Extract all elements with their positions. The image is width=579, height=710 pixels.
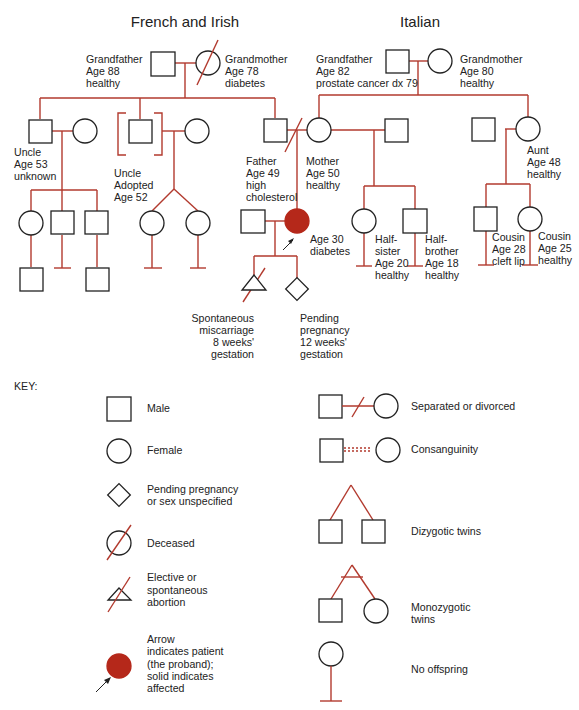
- svg-text:diabetes: diabetes: [225, 77, 265, 89]
- halfbrother-label: Half- brother Age 18 healthy: [425, 233, 460, 281]
- svg-text:No offspring: No offspring: [411, 663, 468, 675]
- svg-text:prostate cancer dx 79: prostate cancer dx 79: [316, 77, 418, 89]
- male-symbol-aunt-spouse: [472, 118, 495, 141]
- key-male-square-icon: [107, 397, 131, 421]
- svg-text:Half-: Half-: [425, 233, 448, 245]
- svg-text:Age 18: Age 18: [425, 257, 459, 269]
- key-female-circle-icon: [107, 439, 131, 463]
- svg-text:(the proband);: (the proband);: [147, 658, 214, 670]
- svg-text:healthy: healthy: [375, 269, 410, 281]
- male-symbol-proband-spouse: [241, 210, 265, 233]
- pending-diamond-icon: [286, 278, 309, 301]
- svg-text:indicates patient: indicates patient: [147, 645, 224, 657]
- male-symbol-fi-grandfather: [151, 52, 175, 76]
- svg-text:Age 49: Age 49: [246, 167, 280, 179]
- svg-text:unknown: unknown: [14, 170, 57, 182]
- svg-text:Grandmother: Grandmother: [225, 53, 288, 65]
- male-symbol-uncle1: [29, 120, 52, 143]
- svg-text:Separated or divorced: Separated or divorced: [411, 400, 515, 412]
- svg-text:Father: Father: [246, 155, 277, 167]
- svg-text:Grandfather: Grandfather: [316, 53, 373, 65]
- female-symbol-aunt: [516, 117, 540, 141]
- svg-text:Age 52: Age 52: [114, 191, 148, 203]
- mother-label: Mother Age 50 healthy: [306, 155, 341, 191]
- svg-text:12 weeks': 12 weeks': [300, 336, 347, 348]
- female-symbol-twin2: [186, 211, 210, 235]
- svg-text:affected: affected: [147, 682, 185, 694]
- svg-text:Adopted: Adopted: [114, 179, 154, 191]
- svg-text:Female: Female: [147, 444, 182, 456]
- svg-text:sister: sister: [375, 245, 401, 257]
- male-symbol-uncle2-adopted: [129, 120, 152, 143]
- key-abortion: Elective or spontaneous abortion: [108, 571, 208, 612]
- male-symbol-gen4-2: [86, 268, 109, 291]
- svg-text:gestation: gestation: [300, 348, 343, 360]
- svg-text:cholesterol: cholesterol: [246, 191, 297, 203]
- key-affected-circle-icon: [107, 654, 131, 678]
- key-cons-male-icon: [320, 439, 343, 462]
- female-symbol-it-grandmother: [428, 49, 452, 73]
- svg-text:Age 80: Age 80: [460, 65, 494, 77]
- svg-text:Age 78: Age 78: [225, 65, 259, 77]
- key-deceased: Deceased: [107, 525, 195, 560]
- key-title: KEY:: [14, 380, 38, 392]
- svg-text:Age 25: Age 25: [538, 242, 572, 254]
- svg-text:high: high: [246, 179, 266, 191]
- svg-text:abortion: abortion: [147, 596, 185, 608]
- female-symbol-halfsister: [352, 209, 376, 233]
- key-proband: Arrow indicates patient (the proband); s…: [96, 633, 224, 694]
- svg-text:twins: twins: [411, 613, 435, 625]
- female-symbol-cousin-fi1: [19, 211, 43, 235]
- svg-text:Cousin: Cousin: [492, 231, 525, 243]
- key-pending: Pending pregnancy or sex unspecified: [108, 483, 239, 507]
- male-symbol-halfbrother: [403, 209, 427, 233]
- key-dz-male1-icon: [319, 520, 342, 543]
- svg-text:solid indicates: solid indicates: [147, 670, 214, 682]
- svg-text:Age 50: Age 50: [306, 167, 340, 179]
- female-symbol-twin1: [140, 211, 164, 235]
- cousin1-label: Cousin Age 28 cleft lip: [492, 231, 526, 267]
- affected-female-proband: [285, 209, 309, 233]
- pedigree-lines: [31, 61, 538, 302]
- svg-text:Arrow: Arrow: [147, 633, 175, 645]
- svg-text:brother: brother: [425, 245, 459, 257]
- key-abortion-slash-icon: [108, 577, 130, 612]
- key-sep-female-icon: [374, 394, 398, 418]
- svg-text:Age 30: Age 30: [310, 233, 344, 245]
- uncle1-label: Uncle Age 53 unknown: [14, 146, 57, 182]
- key-dz-male2-icon: [362, 520, 385, 543]
- svg-text:Grandfather: Grandfather: [86, 53, 143, 65]
- svg-text:healthy: healthy: [538, 254, 573, 266]
- svg-text:Age 82: Age 82: [316, 65, 350, 77]
- key-no-offspring-circle-icon: [319, 642, 343, 666]
- key-cons-female-icon: [376, 438, 400, 462]
- svg-text:healthy: healthy: [306, 179, 341, 191]
- key-dizygotic: Dizygotic twins: [319, 485, 481, 543]
- pending-label: Pending pregnancy 12 weeks' gestation: [300, 312, 350, 360]
- svg-text:spontaneous: spontaneous: [147, 584, 208, 596]
- abortion-triangle-icon: [242, 275, 266, 290]
- key-mz-male-icon: [319, 599, 342, 622]
- svg-text:Uncle: Uncle: [114, 167, 141, 179]
- svg-text:Age 53: Age 53: [14, 158, 48, 170]
- key-no-offspring: No offspring: [319, 642, 468, 701]
- svg-text:diabetes: diabetes: [310, 245, 350, 257]
- header-italian: Italian: [400, 13, 440, 30]
- key-consanguinity: Consanguinity: [320, 438, 479, 462]
- male-symbol-cousin-it1: [474, 207, 497, 231]
- svg-text:Aunt: Aunt: [527, 144, 549, 156]
- svg-text:Half-: Half-: [375, 233, 398, 245]
- header-french-irish: French and Irish: [131, 13, 239, 30]
- male-symbol-father: [264, 119, 287, 142]
- key-female: Female: [107, 439, 182, 463]
- male-symbol-cousin-fi3: [85, 211, 108, 234]
- male-symbol-mother-partner: [385, 119, 408, 142]
- female-symbol-mother: [307, 118, 331, 142]
- svg-text:Age 20: Age 20: [375, 257, 409, 269]
- key-mz-female-icon: [364, 599, 388, 623]
- svg-text:Age 48: Age 48: [527, 156, 561, 168]
- fi-grandfather-label: Grandfather Age 88 healthy: [86, 53, 143, 89]
- svg-text:Cousin: Cousin: [538, 230, 571, 242]
- miscarriage-label: Spontaneous miscarriage 8 weeks' gestati…: [192, 312, 255, 360]
- male-symbol-gen4-1: [20, 268, 43, 291]
